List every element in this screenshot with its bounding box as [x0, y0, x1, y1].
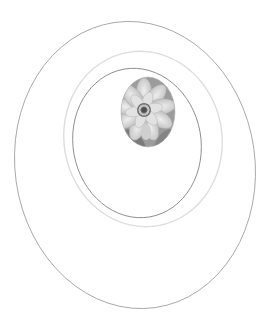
flower-photo: [111, 77, 178, 152]
outer-ring: [0, 6, 272, 325]
lower-petal: [141, 124, 151, 140]
photo-corner-mark: [122, 80, 126, 84]
rings-group: [0, 6, 272, 325]
concentric-rings-diagram: [0, 0, 272, 329]
diagram-canvas: [0, 0, 272, 329]
